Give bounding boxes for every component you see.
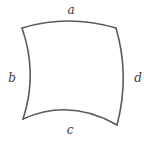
label-a: a: [67, 4, 74, 16]
edge-a-top: [22, 21, 116, 28]
edge-b-left: [22, 28, 30, 119]
label-b: b: [8, 72, 16, 84]
edge-d-right: [116, 28, 123, 125]
label-d: d: [134, 72, 142, 84]
label-c: c: [67, 124, 74, 136]
quadrilateral-diagram: [0, 0, 147, 142]
